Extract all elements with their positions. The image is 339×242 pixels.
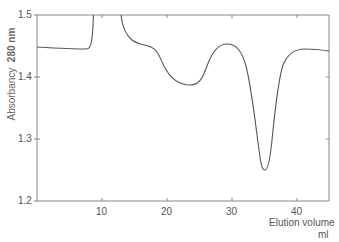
y-tick-1.3: 1.3	[18, 133, 32, 144]
y-axis-label-text: Absorbancy	[6, 68, 17, 121]
x-tick-30: 30	[226, 206, 237, 217]
absorbancy-curve	[37, 15, 329, 170]
y-axis-label: Absorbancy 280 nm	[6, 31, 17, 121]
axis-ticks	[34, 15, 329, 201]
y-tick-1.4: 1.4	[18, 71, 32, 82]
y-tick-1.5: 1.5	[18, 9, 32, 20]
axes-frame	[37, 15, 329, 201]
x-tick-40: 40	[291, 206, 302, 217]
x-axis-label: Elution volume	[269, 217, 335, 228]
y-tick-1.2: 1.2	[18, 195, 32, 206]
x-tick-10: 10	[96, 206, 107, 217]
x-tick-20: 20	[161, 206, 172, 217]
y-axis-label-wavelength: 280 nm	[6, 28, 17, 62]
x-axis-unit: ml	[318, 229, 329, 240]
